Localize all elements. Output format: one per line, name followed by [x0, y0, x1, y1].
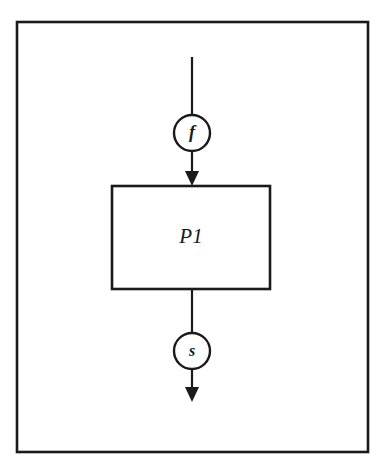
process-block-label: P1 [178, 224, 202, 248]
diagram-root: P1 f s [0, 0, 388, 473]
output-arrowhead-icon [185, 387, 199, 402]
input-arrowhead-icon [185, 171, 199, 186]
block-diagram-canvas: P1 f s [0, 0, 388, 473]
signal-node-s-label: s [188, 342, 195, 359]
